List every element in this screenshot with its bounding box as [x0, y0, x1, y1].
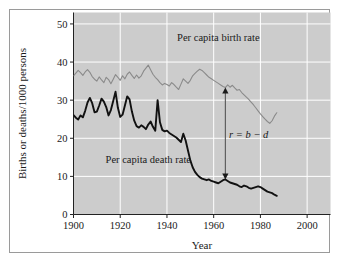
series-label-per-capita-birth-rate: Per capita birth rate	[177, 32, 260, 43]
x-tick-label: 1940	[156, 220, 177, 231]
y-tick-label: 10	[57, 171, 68, 182]
series-label-per-capita-death-rate: Per capita death rate	[106, 154, 192, 165]
y-tick-label: 20	[57, 133, 68, 144]
y-tick-label: 0	[62, 209, 67, 220]
y-tick-label: 50	[57, 19, 68, 30]
y-tick-label: 30	[57, 95, 68, 106]
annotation-text: r = b − d	[229, 129, 269, 140]
x-tick-label: 1960	[203, 220, 224, 231]
x-tick-label: 2000	[297, 220, 318, 231]
x-tick-label: 1900	[63, 220, 84, 231]
chart-figure: 01020304050190019201940196019802000 r = …	[0, 0, 339, 262]
x-axis-title: Year	[192, 239, 213, 251]
x-tick-label: 1980	[250, 220, 271, 231]
x-tick-label: 1920	[110, 220, 131, 231]
chart-canvas: 01020304050190019201940196019802000 r = …	[0, 0, 339, 262]
y-tick-label: 40	[57, 57, 68, 68]
y-axis-title: Births or deaths/1000 persons	[16, 48, 28, 179]
